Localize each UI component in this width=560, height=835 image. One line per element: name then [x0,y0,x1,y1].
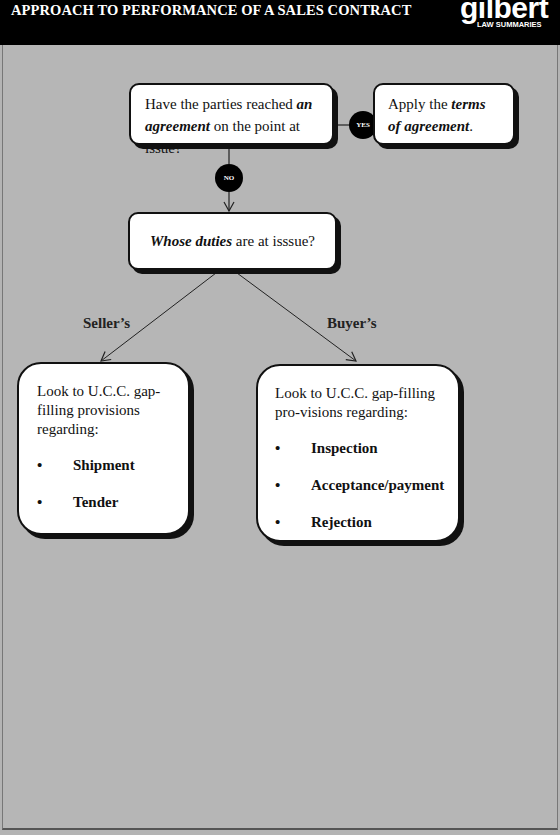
seller-items-list: Shipment Tender [37,456,188,530]
yes-outcome-period: . [469,118,473,134]
seller-intro: Look to U.C.C. gap-filling provisions re… [37,382,187,439]
agreement-question-box: Have the parties reached an agreement on… [129,83,334,145]
buyer-item: Inspection [275,439,458,476]
question1-emph-an: an [297,96,313,112]
yes-outcome-emph-agreement: of agreement [388,118,469,134]
seller-provisions-box: Look to U.C.C. gap-filling provisions re… [17,362,190,535]
yes-outcome-text: Apply the [388,96,451,112]
seller-branch-label: Seller’s [83,315,130,332]
question2-emph: Whose duties [150,233,232,249]
buyer-item: Acceptance/payment [275,476,458,513]
buyer-branch-label: Buyer’s [327,315,377,332]
whose-duties-box: Whose duties are at isssue? [128,212,337,270]
seller-item: Tender [37,493,188,530]
buyer-item: Rejection [275,513,458,550]
buyer-items-list: Inspection Acceptance/payment Rejection [275,439,458,550]
question1-text: Have the parties reached [145,96,297,112]
question2-text: are at isssue? [232,233,315,249]
yes-outcome-emph-terms: terms [451,96,485,112]
no-decision-badge: NO [215,164,243,192]
seller-item: Shipment [37,456,188,493]
question1-emph-agreement: agreement [145,118,210,134]
buyer-provisions-box: Look to U.C.C. gap-filling pro-visions r… [256,364,460,542]
buyer-intro: Look to U.C.C. gap-filling pro-visions r… [275,384,447,422]
apply-terms-box: Apply the terms of agreement. [373,83,515,145]
